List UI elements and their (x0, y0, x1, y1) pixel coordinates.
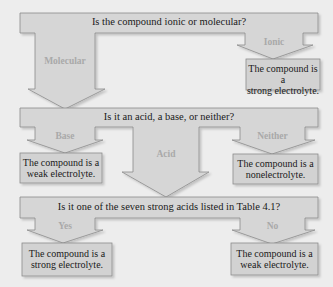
result-ionic-line2: strong electrolyte. (246, 85, 320, 96)
question-2-text: Is it an acid, a base, or neither? (20, 112, 318, 123)
branch-label-ionic: Ionic (245, 38, 303, 48)
branch-label-no: No (240, 222, 305, 232)
question-3-text: Is it one of the seven strong acids list… (20, 202, 318, 213)
result-base-line2: weak electrolyte. (20, 168, 102, 179)
result-ionic-line1: The compound is a (246, 63, 320, 85)
result-neither-line1: The compound is a (233, 158, 318, 169)
result-yes-line1: The compound is a (22, 248, 112, 259)
result-text-yes: The compound is a strong electrolyte. (22, 248, 112, 270)
branch-label-base: Base (35, 132, 95, 142)
result-text-no: The compound is a weak electrolyte. (231, 248, 318, 270)
result-yes-line2: strong electrolyte. (22, 259, 112, 270)
result-base-line1: The compound is a (20, 157, 102, 168)
result-no-line1: The compound is a (231, 248, 318, 259)
result-text-ionic: The compound is a strong electrolyte. (246, 63, 320, 96)
branch-label-neither: Neither (240, 132, 305, 142)
branch-label-molecular: Molecular (35, 57, 95, 67)
branch-label-yes: Yes (35, 222, 95, 232)
result-neither-line2: nonelectrolyte. (233, 169, 318, 180)
result-no-line2: weak electrolyte. (231, 259, 318, 270)
question-1-text: Is the compound ionic or molecular? (20, 17, 318, 28)
branch-label-acid: Acid (133, 150, 199, 160)
result-text-neither: The compound is a nonelectrolyte. (233, 158, 318, 180)
result-text-base: The compound is a weak electrolyte. (20, 157, 102, 179)
